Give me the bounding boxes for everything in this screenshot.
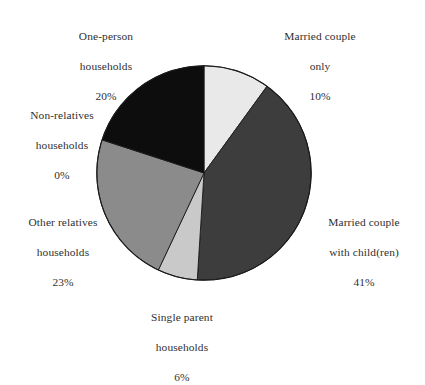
pie-label-single-parent-value: 6%	[98, 370, 266, 385]
pie-label-non-relatives-value: 0%	[0, 168, 126, 183]
pie-label-other-relatives-line2: households	[0, 245, 128, 260]
pie-label-married-couple-only: Married couple only 10%	[232, 14, 408, 119]
pie-label-married-couple-with-children: Married couple with child(ren) 41%	[300, 200, 425, 305]
pie-label-one-person-line2: households	[18, 59, 194, 74]
pie-label-married-children-line2: with child(ren)	[300, 245, 425, 260]
pie-label-married-only-line1: Married couple	[232, 29, 408, 44]
pie-label-single-parent-households: Single parent households 6%	[98, 295, 266, 385]
pie-label-non-relatives-households: Non-relatives households 0%	[0, 93, 126, 198]
pie-label-one-person-line1: One-person	[18, 29, 194, 44]
pie-label-non-relatives-line1: Non-relatives	[0, 108, 126, 123]
pie-label-other-relatives-value: 23%	[0, 275, 128, 290]
pie-label-other-relatives-line1: Other relatives	[0, 215, 128, 230]
pie-label-married-children-line1: Married couple	[300, 215, 425, 230]
pie-label-single-parent-line2: households	[98, 340, 266, 355]
pie-label-non-relatives-line2: households	[0, 138, 126, 153]
pie-label-married-only-line2: only	[232, 59, 408, 74]
pie-label-other-relatives-households: Other relatives households 23%	[0, 200, 128, 305]
pie-label-married-children-value: 41%	[300, 275, 425, 290]
pie-label-single-parent-line1: Single parent	[98, 310, 266, 325]
pie-label-married-only-value: 10%	[232, 89, 408, 104]
